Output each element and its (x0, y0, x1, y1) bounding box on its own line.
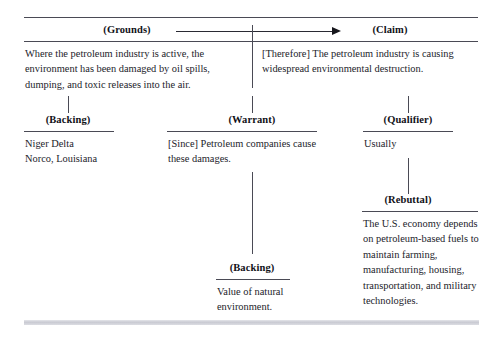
rebuttal-text: The U.S. economy depends on petroleum-ba… (363, 216, 481, 308)
warrant-label: (Warrant) (207, 114, 297, 125)
backing-warrant-label: (Backing) (207, 262, 297, 273)
warrant-to-backing-stem (252, 172, 253, 254)
grounds-to-warrant-stem (252, 96, 253, 113)
backing-left-label: (Backing) (23, 114, 113, 125)
claim-to-qualifier-stem (408, 96, 409, 113)
qualifier-label: (Qualifier) (363, 114, 453, 125)
backing-warrant-text: Value of natural environment. (217, 284, 307, 315)
backing-left-underline (24, 131, 114, 132)
qualifier-to-rebuttal-stem (408, 158, 409, 194)
backing-warrant-underline (216, 279, 290, 280)
rebuttal-underline (362, 211, 478, 212)
top-horizontal-rule (24, 17, 478, 18)
claim-text: [Therefore] The petroleum industry is ca… (262, 46, 480, 77)
claim-label: (Claim) (350, 24, 430, 35)
grounds-claim-divider (252, 25, 253, 88)
warrant-underline (167, 131, 317, 132)
grounds-claim-underline (24, 41, 478, 42)
qualifier-underline (363, 131, 453, 132)
bottom-decorative-bar (24, 320, 479, 325)
warrant-text: [Since] Petroleum companies cause these … (168, 136, 318, 167)
backing-left-text-line1: Niger Delta (25, 136, 145, 151)
grounds-label: (Grounds) (82, 24, 172, 35)
grounds-to-backing-stem (68, 96, 69, 113)
grounds-to-claim-arrow-shaft (176, 31, 334, 32)
qualifier-text: Usually (364, 136, 454, 151)
backing-left-text-line2: Norco, Louisiana (25, 151, 155, 166)
grounds-to-claim-arrow-head (332, 27, 341, 35)
toulmin-diagram-page: (Grounds) (Claim) Where the petroleum in… (0, 0, 501, 340)
grounds-text: Where the petroleum industry is active, … (25, 46, 247, 92)
rebuttal-label: (Rebuttal) (363, 194, 453, 205)
